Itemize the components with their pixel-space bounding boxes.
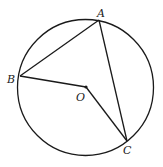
segment-bo bbox=[20, 76, 86, 87]
label-c: C bbox=[123, 144, 132, 157]
label-o: O bbox=[76, 91, 85, 104]
center-point-o bbox=[84, 85, 87, 88]
label-a: A bbox=[96, 7, 105, 20]
label-b: B bbox=[6, 73, 15, 86]
segment-ab bbox=[20, 20, 99, 76]
geometry-diagram: A B O C bbox=[0, 0, 163, 167]
